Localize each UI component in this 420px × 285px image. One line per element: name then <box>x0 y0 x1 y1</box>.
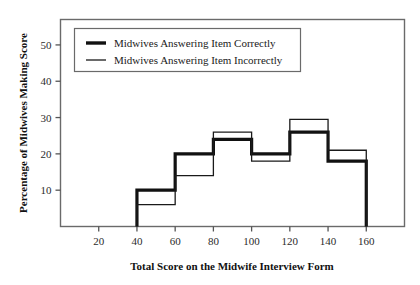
chart-legend: Midwives Answering Item Correctly Midwiv… <box>75 29 301 72</box>
y-tick-label: 30 <box>41 112 53 124</box>
x-axis-title: Total Score on the Midwife Interview For… <box>130 260 333 272</box>
y-tick-label: 40 <box>41 75 53 87</box>
legend-label-correct: Midwives Answering Item Correctly <box>114 37 276 49</box>
x-tick-label: 140 <box>320 235 337 247</box>
x-tick-label: 60 <box>170 235 182 247</box>
histogram-plot: 1020304050 20406080100120140160 Midwives… <box>0 0 420 285</box>
y-axis-title: Percentage of Midwives Making Score <box>17 33 29 213</box>
x-tick-label: 160 <box>358 235 375 247</box>
legend-label-incorrect: Midwives Answering Item Incorrectly <box>114 54 283 66</box>
x-tick-label: 40 <box>131 235 143 247</box>
x-tick-label: 100 <box>243 235 260 247</box>
x-tick-label: 80 <box>208 235 220 247</box>
x-tick-label: 20 <box>93 235 105 247</box>
y-tick-label: 10 <box>41 184 53 196</box>
y-tick-label: 50 <box>41 39 53 51</box>
x-tick-label: 120 <box>282 235 299 247</box>
y-tick-label: 20 <box>41 148 53 160</box>
chart-figure: 1020304050 20406080100120140160 Midwives… <box>0 0 420 285</box>
